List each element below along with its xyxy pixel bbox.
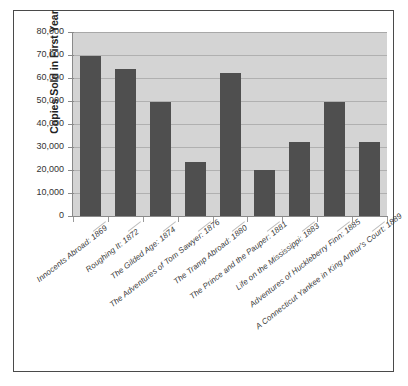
x-axis-tick xyxy=(352,217,353,222)
x-axis-tick xyxy=(282,217,283,222)
x-axis-category-label: The Gilded Age: 1874 xyxy=(109,225,177,281)
y-axis-tick xyxy=(68,193,74,194)
y-axis-tick xyxy=(68,170,74,171)
x-axis-category-label: Innocents Abroad: 1869 xyxy=(35,224,109,285)
y-axis-tick xyxy=(68,147,74,148)
x-axis-tick xyxy=(387,217,388,222)
x-axis-tick xyxy=(143,217,144,222)
chart-frame: Copies Sold in First Year 010,00020,0003… xyxy=(13,10,394,372)
x-axis-tick xyxy=(317,217,318,222)
y-axis-tick xyxy=(68,124,74,125)
y-axis-tick xyxy=(68,55,74,56)
x-axis-tick xyxy=(178,217,179,222)
x-axis-tick xyxy=(108,217,109,222)
x-axis-tick xyxy=(213,217,214,222)
x-axis-category-labels: Innocents Abroad: 1869Roughing It: 1872T… xyxy=(14,11,408,386)
y-axis-tick xyxy=(68,78,74,79)
chart-figure: Copies Sold in First Year 010,00020,0003… xyxy=(0,0,408,386)
y-axis-tick xyxy=(68,101,74,102)
x-axis-tick xyxy=(247,217,248,222)
x-axis-tick xyxy=(73,217,74,222)
y-axis-tick xyxy=(68,32,74,33)
